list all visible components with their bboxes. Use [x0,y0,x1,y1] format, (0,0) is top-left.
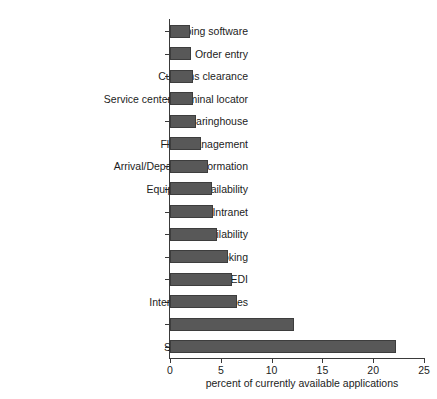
x-axis-tick-label: 20 [367,364,379,376]
x-axis-tick-label: 25 [418,364,430,376]
x-axis-tick-label: 0 [167,364,173,376]
chart-bar-row: Clearinghouse [170,110,424,133]
chart-bar [170,160,208,173]
chart-bar [170,318,294,331]
chart-bar-row: Equipment availability [170,178,424,201]
chart-bar-row: Fleet management [170,133,424,156]
plot-area: Shiping softwareOrder entryCustoms clear… [170,20,424,358]
chart-bar-row: Load availability [170,223,424,246]
chart-bar [170,340,396,353]
chart-bar [170,182,212,195]
chart-bar-row: Arrival/Departure information [170,155,424,178]
bar-chart-figure: Shiping softwareOrder entryCustoms clear… [0,0,437,399]
x-axis-tick [272,358,273,363]
chart-bar [170,70,193,83]
x-axis-tick-label: 5 [218,364,224,376]
category-label: Order entry [195,47,248,61]
chart-bar-row: Extranet/Intranet [170,200,424,223]
x-axis-tick-label: 15 [317,364,329,376]
x-axis-tick-label: 10 [266,364,278,376]
chart-bar-row: Service center/Terminal locator [170,88,424,111]
chart-bar [170,47,191,60]
chart-bar-row: Quote request [170,313,424,336]
chart-bar-row: Order entry [170,43,424,66]
chart-bar [170,228,217,241]
chart-bar [170,92,193,105]
chart-bar [170,205,213,218]
chart-bar-row: EC/EDI [170,268,424,291]
chart-bar [170,25,190,38]
chart-bar-row: Load booking [170,245,424,268]
x-axis-tick [424,358,425,363]
x-axis-label: percent of currently available applicati… [170,377,434,389]
chart-bar [170,137,201,150]
chart-bar-row: Shiping software [170,20,424,43]
chart-bar [170,273,232,286]
chart-bar [170,250,228,263]
chart-bar [170,295,237,308]
chart-bar [170,115,196,128]
x-axis-line [169,358,425,359]
chart-bar-row: Interactive schedules [170,290,424,313]
x-axis-tick [373,358,374,363]
x-axis-tick [221,358,222,363]
chart-bar-row: Shipment tracking [170,335,424,358]
x-axis-tick [170,358,171,363]
chart-bar-row: Customs clearance [170,65,424,88]
x-axis-tick [322,358,323,363]
